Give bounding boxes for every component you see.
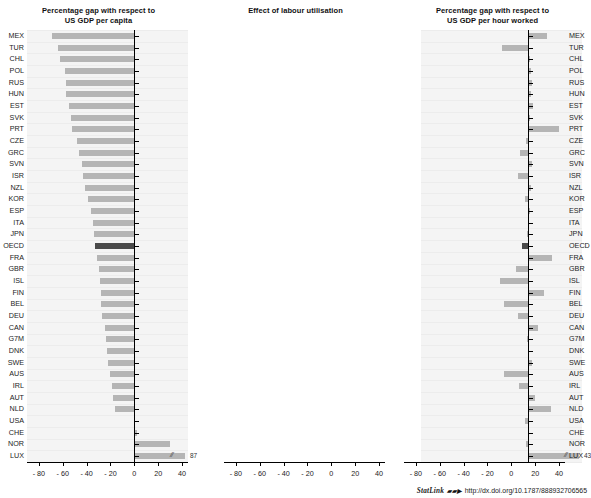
gridline <box>27 275 188 276</box>
bar-g7m <box>106 336 135 342</box>
category-label-esp: ESP <box>3 207 24 215</box>
category-tick <box>135 269 139 270</box>
panel-title-line1: Percentage gap with respect to <box>394 6 591 16</box>
bar-est <box>69 103 135 109</box>
panel-title-labour-utilisation: Effect of labour utilisation <box>197 6 394 16</box>
category-label-nld: NLD <box>3 405 24 413</box>
category-label-fra: FRA <box>569 254 591 262</box>
statlink-label: StatLink <box>417 487 444 495</box>
category-label-lux: LUX <box>3 452 24 460</box>
category-tick <box>135 433 139 434</box>
gridline <box>27 147 188 148</box>
category-tick <box>135 118 139 119</box>
x-axis-line <box>224 462 385 463</box>
category-tick <box>135 351 139 352</box>
x-tick <box>559 463 560 466</box>
x-tick <box>134 463 135 466</box>
category-label-isr: ISR <box>569 172 591 180</box>
statlink-logo-icon: ▰▰▶ <box>447 487 462 494</box>
category-tick <box>135 421 139 422</box>
x-tick <box>260 463 261 466</box>
panel-title-line2: US GDP per capita <box>0 16 197 26</box>
x-tick <box>511 463 512 466</box>
panel-gdp-per-capita: Percentage gap with respect to US GDP pe… <box>0 0 197 498</box>
category-tick <box>135 316 139 317</box>
panel-title-gdp-per-capita: Percentage gap with respect to US GDP pe… <box>0 6 197 26</box>
category-label-pol: POL <box>3 67 24 75</box>
bar-tur <box>58 45 134 51</box>
x-tick <box>379 463 380 466</box>
category-label-usa: USA <box>569 417 591 425</box>
gridline <box>27 287 188 288</box>
gridline <box>27 30 188 31</box>
category-label-mex: MEX <box>3 32 24 40</box>
bar-gbr <box>99 266 135 272</box>
gridline <box>27 88 188 89</box>
statlink-url[interactable]: http://dx.doi.org/10.1787/888932706565 <box>465 487 587 494</box>
x-tick <box>307 463 308 466</box>
category-tick <box>135 304 139 305</box>
bar-svk <box>71 115 134 121</box>
category-label-rus: RUS <box>3 79 24 87</box>
gridline <box>27 415 188 416</box>
category-tick <box>135 363 139 364</box>
category-label-kor: KOR <box>569 195 591 203</box>
gridline <box>27 369 188 370</box>
category-label-dnk: DNK <box>569 347 591 355</box>
figure-chart-gdp-decomposition: Percentage gap with respect to US GDP pe… <box>0 0 591 498</box>
category-label-oecd: OECD <box>569 242 591 250</box>
panel-title-line1: Effect of labour utilisation <box>197 6 394 16</box>
x-tick-label: 40 <box>545 469 573 478</box>
category-tick <box>135 258 139 259</box>
category-label-tur: TUR <box>3 44 24 52</box>
category-label-oecd: OECD <box>3 242 24 250</box>
category-label-fra: FRA <box>3 254 24 262</box>
category-label-can: CAN <box>569 324 591 332</box>
category-label-bel: BEL <box>569 300 591 308</box>
gridline <box>27 205 188 206</box>
category-label-svn: SVN <box>3 160 24 168</box>
category-label-nld: NLD <box>569 405 591 413</box>
x-tick <box>110 463 111 466</box>
x-tick <box>87 463 88 466</box>
category-tick <box>135 409 139 410</box>
category-tick <box>135 328 139 329</box>
category-tick <box>135 141 139 142</box>
gridline <box>27 65 188 66</box>
gridline <box>27 427 188 428</box>
category-tick <box>135 83 139 84</box>
gridline <box>27 252 188 253</box>
gridline <box>27 100 188 101</box>
bar-mex <box>52 33 134 39</box>
bar-isr <box>83 173 134 179</box>
x-tick <box>464 463 465 466</box>
panel-title-line2: US GDP per hour worked <box>394 16 591 26</box>
category-label-aus: AUS <box>569 370 591 378</box>
category-label-rus: RUS <box>569 79 591 87</box>
category-label-nzl: NZL <box>3 184 24 192</box>
panel-title-gdp-per-hour: Percentage gap with respect to US GDP pe… <box>394 6 591 26</box>
category-label-aut: AUT <box>3 394 24 402</box>
category-label-isl: ISL <box>3 277 24 285</box>
x-tick <box>236 463 237 466</box>
category-label-svn: SVN <box>569 160 591 168</box>
category-label-aus: AUS <box>3 370 24 378</box>
category-label-che: CHE <box>3 429 24 437</box>
category-label-g7m: G7M <box>569 335 591 343</box>
category-tick <box>135 188 139 189</box>
bar-chl <box>60 56 134 62</box>
category-label-chl: CHL <box>569 55 591 63</box>
bar-aus <box>110 371 134 377</box>
category-tick <box>135 456 139 457</box>
category-tick <box>135 246 139 247</box>
category-tick <box>135 234 139 235</box>
gridline <box>27 182 188 183</box>
gridline <box>27 112 188 113</box>
category-label-che: CHE <box>569 429 591 437</box>
category-label-swe: SWE <box>3 359 24 367</box>
gridline <box>27 345 188 346</box>
x-tick <box>39 463 40 466</box>
gridline <box>27 217 188 218</box>
x-axis-line <box>404 462 565 463</box>
category-tick <box>135 59 139 60</box>
